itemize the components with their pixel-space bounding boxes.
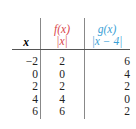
cell-x: 4 [12, 93, 38, 106]
cell-f: 2 [40, 55, 84, 68]
table-row: −2 2 6 [12, 55, 130, 68]
cell-f: 6 [40, 105, 84, 118]
header-x: x [12, 36, 40, 48]
cell-g: 2 [96, 80, 130, 93]
cell-x: 6 [12, 105, 38, 118]
cell-f: 2 [40, 80, 84, 93]
cell-g: 2 [96, 105, 130, 118]
header-g-expr: |x − 4| [84, 35, 130, 47]
cell-g: 4 [96, 68, 130, 81]
header-f-expr: |x| [40, 35, 84, 47]
values-table-body: −2 2 6 0 0 4 2 2 2 4 4 0 6 6 2 [12, 55, 130, 118]
header-g-name: g(x) [84, 23, 130, 35]
cell-x: −2 [12, 55, 38, 68]
cell-f: 0 [40, 68, 84, 81]
table-row: 4 4 0 [12, 93, 130, 106]
cell-x: 2 [12, 80, 38, 93]
cell-g: 6 [96, 55, 130, 68]
header-f: f(x) |x| [40, 23, 84, 47]
table-row: 2 2 2 [12, 80, 130, 93]
cell-g: 0 [96, 93, 130, 106]
header-f-name: f(x) [40, 23, 84, 35]
cell-f: 4 [40, 93, 84, 106]
table-row: 0 0 4 [12, 68, 130, 81]
cell-x: 0 [12, 68, 38, 81]
header-g: g(x) |x − 4| [84, 23, 130, 47]
table-row: 6 6 2 [12, 105, 130, 118]
values-table-header: x f(x) |x| g(x) |x − 4| [12, 18, 130, 50]
